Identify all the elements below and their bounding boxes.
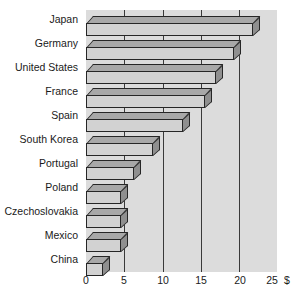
x-tick-5: 5	[112, 274, 136, 286]
x-tick-0: 0	[74, 274, 98, 286]
y-axis-label-china: China	[0, 254, 78, 265]
x-tick-10: 10	[151, 274, 175, 286]
x-axis: 0 5 10 15 20 25 $	[0, 274, 297, 294]
x-tick-25: 25	[260, 274, 284, 286]
y-axis-label-spain: Spain	[0, 110, 78, 121]
bar-portugal	[86, 160, 141, 174]
y-axis-label-germany: Germany	[0, 38, 78, 49]
y-axis-category-labels: Japan Germany United States France Spain…	[0, 10, 82, 272]
bar-japan	[86, 16, 260, 30]
bar-front-face	[86, 191, 121, 204]
bar-front-face	[86, 167, 134, 180]
bar-china	[86, 256, 110, 270]
y-axis-label-united-states: United States	[0, 62, 78, 73]
y-axis-label-mexico: Mexico	[0, 230, 78, 241]
y-axis-label-france: France	[0, 86, 78, 97]
bar-czechoslovakia	[86, 208, 128, 222]
bar-front-face	[86, 71, 216, 84]
y-axis-label-poland: Poland	[0, 182, 78, 193]
bar-front-face	[86, 215, 121, 228]
y-axis-label-czechoslovakia: Czechoslovakia	[0, 206, 78, 217]
plot-area	[86, 10, 277, 272]
bar-poland	[86, 184, 128, 198]
bar-germany	[86, 40, 241, 54]
y-axis-label-japan: Japan	[0, 14, 78, 25]
bar-mexico	[86, 232, 128, 246]
bar-front-face	[86, 95, 205, 108]
bar-front-face	[86, 143, 153, 156]
bar-chart: Japan Germany United States France Spain…	[0, 0, 297, 307]
bar-south-korea	[86, 136, 160, 150]
bar-front-face	[86, 47, 234, 60]
bar-front-face	[86, 23, 253, 36]
x-tick-20: 20	[228, 274, 252, 286]
bar-front-face	[86, 119, 183, 132]
bar-spain	[86, 112, 190, 126]
bar-united-states	[86, 64, 223, 78]
bar-front-face	[86, 239, 121, 252]
x-axis-unit-label: $	[284, 274, 290, 286]
y-axis-label-south-korea: South Korea	[0, 134, 78, 145]
x-tick-15: 15	[189, 274, 213, 286]
y-axis-label-portugal: Portugal	[0, 158, 78, 169]
bar-france	[86, 88, 212, 102]
